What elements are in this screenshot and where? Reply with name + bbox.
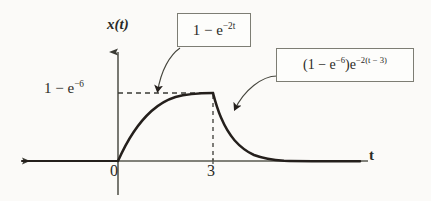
decaying-close: )e: [345, 57, 356, 72]
curve-rising-exponential: [118, 93, 213, 161]
leader-line-rising: [158, 48, 181, 92]
x-tick-label-0: 0: [110, 162, 118, 180]
decaying-open: (1 − e: [303, 57, 336, 72]
rising-base: 1 − e: [193, 22, 223, 38]
y-axis-label-text: x(t): [107, 16, 129, 32]
rising-exponent: −2t: [223, 21, 235, 31]
y-tick-label-exponent: −6: [74, 79, 84, 89]
annotation-rising-formula-text: 1 − e−2t: [193, 23, 236, 38]
curve-decaying-exponential: [213, 93, 360, 161]
decaying-exponent-1: −6: [336, 55, 345, 65]
x-tick-label-3-text: 3: [207, 162, 215, 179]
leader-line-decaying: [235, 76, 278, 110]
x-axis-label: t: [369, 147, 374, 164]
y-tick-label: 1 − e−6: [44, 81, 84, 96]
annotation-decaying-formula-text: (1 − e−6)e−2(t − 3): [303, 58, 387, 72]
annotation-box-rising-formula: 1 − e−2t: [177, 13, 251, 47]
y-tick-label-base: 1 − e: [44, 80, 74, 96]
x-tick-label-0-text: 0: [110, 162, 118, 179]
x-axis-label-text: t: [369, 147, 374, 163]
decaying-exponent-2: −2(t − 3): [356, 55, 387, 65]
x-tick-label-3: 3: [207, 162, 215, 180]
function-plot-figure: x(t) t 0 3 1 − e−6 1 − e−2t (1 − e−6)e−2…: [0, 0, 431, 201]
annotation-box-decaying-formula: (1 − e−6)e−2(t − 3): [276, 48, 414, 82]
y-axis-label: x(t): [107, 16, 129, 33]
